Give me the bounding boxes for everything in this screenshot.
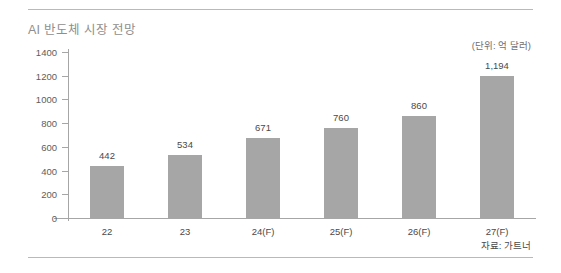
y-tick-mark <box>62 218 68 219</box>
y-tick-label: 600 <box>41 141 57 152</box>
bar-value-label: 442 <box>99 150 115 161</box>
bar-group: 86026(F) <box>380 52 458 218</box>
y-tick-label: 0 <box>52 213 57 224</box>
bar <box>90 166 124 218</box>
x-axis-category-label: 25(F) <box>330 226 353 237</box>
chart-figure: AI 반도체 시장 전망 (단위: 억 달러) 자료: 가트너 02004006… <box>0 0 561 273</box>
x-axis-category-label: 24(F) <box>252 226 275 237</box>
chart-title: AI 반도체 시장 전망 <box>28 19 137 38</box>
source-note: 자료: 가트너 <box>481 238 531 252</box>
bar-group: 1,19427(F) <box>458 52 536 218</box>
x-axis-category-label: 27(F) <box>486 226 509 237</box>
y-tick-label: 400 <box>41 165 57 176</box>
x-axis-category-label: 23 <box>180 226 191 237</box>
bar-value-label: 1,194 <box>485 60 509 71</box>
bar-group: 44222 <box>68 52 146 218</box>
y-tick-label: 200 <box>41 189 57 200</box>
bar <box>480 76 514 218</box>
bar-group: 53423 <box>146 52 224 218</box>
x-axis-line <box>54 218 536 219</box>
bar-group: 76025(F) <box>302 52 380 218</box>
plot-area: 0200400600800100012001400 44222534236712… <box>68 52 536 218</box>
bar-value-label: 760 <box>333 112 349 123</box>
y-tick-label: 1000 <box>36 94 57 105</box>
y-tick-label: 1200 <box>36 70 57 81</box>
x-axis-category-label: 26(F) <box>408 226 431 237</box>
bar <box>246 138 280 218</box>
x-axis-category-label: 22 <box>102 226 113 237</box>
bar <box>402 116 436 218</box>
bar <box>324 128 358 218</box>
top-divider <box>28 9 533 10</box>
bar-value-label: 860 <box>411 100 427 111</box>
bar-value-label: 534 <box>177 139 193 150</box>
bar-value-label: 671 <box>255 122 271 133</box>
y-tick-label: 800 <box>41 118 57 129</box>
unit-note: (단위: 억 달러) <box>472 38 531 52</box>
bottom-divider <box>28 257 533 258</box>
y-tick-label: 1400 <box>36 47 57 58</box>
bar-group: 67124(F) <box>224 52 302 218</box>
bar <box>168 155 202 218</box>
